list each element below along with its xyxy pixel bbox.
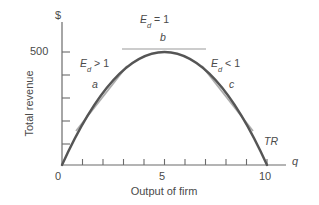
y-axis-currency-symbol: $ (55, 10, 61, 21)
annotation-elastic-subscript: d (87, 65, 91, 74)
x-axis-title: Output of firm (110, 186, 218, 197)
annotation-unit-elastic-suffix: = 1 (151, 13, 169, 25)
x-tick-label-0: 0 (55, 171, 61, 182)
curve-label-tr: TR (264, 136, 278, 147)
x-tick-label-5: 5 (159, 171, 165, 182)
y-axis-title: Total revenue (24, 56, 35, 152)
annotation-unit-elastic-subscript: d (147, 21, 151, 30)
annotation-elastic: Ed > 1 (80, 58, 109, 72)
annotation-elastic-prefix: E (80, 57, 87, 69)
total-revenue-figure: $ 500 Total revenue Output of firm 0 5 1… (0, 0, 319, 205)
x-axis-ticks (83, 159, 268, 165)
annotation-unit-elastic: Ed = 1 (140, 14, 169, 28)
point-label-b: b (160, 32, 166, 43)
annotation-inelastic-suffix: < 1 (222, 57, 240, 69)
annotation-unit-elastic-prefix: E (140, 13, 147, 25)
annotation-inelastic-subscript: d (218, 65, 222, 74)
annotation-inelastic: Ed < 1 (211, 58, 240, 72)
point-label-c: c (229, 79, 234, 90)
annotation-elastic-suffix: > 1 (91, 57, 109, 69)
point-label-a: a (92, 79, 98, 90)
y-axis-ticks (62, 52, 70, 144)
annotation-inelastic-prefix: E (211, 57, 218, 69)
x-tick-label-10: 10 (259, 171, 271, 182)
x-axis-variable-label: q (292, 156, 298, 167)
